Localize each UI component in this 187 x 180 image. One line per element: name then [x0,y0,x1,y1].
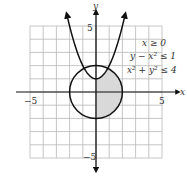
inequality-3: x² + y² ≤ 4 [127,65,177,75]
y-tick-neg5: −5 [83,152,97,162]
shaded-region [96,68,122,118]
graph: y x −5 5 5 −5 x ≥ 0 y − x² ≤ 1 x² + y² ≤… [0,0,187,180]
y-tick-5: 5 [87,23,93,33]
x-axis-label: x [180,87,185,97]
inequality-1: x ≥ 0 [142,38,166,48]
y-axis-label: y [92,1,99,11]
x-tick-5: 5 [159,96,165,106]
x-tick-neg5: −5 [24,96,38,106]
inequality-2: y − x² ≤ 1 [129,51,176,61]
